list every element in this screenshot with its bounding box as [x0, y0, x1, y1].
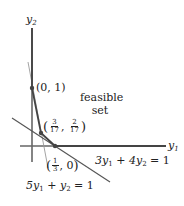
- feasible-set-label: feasible set: [80, 92, 120, 116]
- equation-label-5y1-plus-y2: 5y1 + y2 = 1: [26, 180, 94, 193]
- vertex-0-1: [30, 86, 34, 90]
- y1-axis-label: y1: [168, 140, 179, 153]
- point-label-1-3-0: (13, 0): [46, 158, 79, 173]
- point-label-3-17-2-17: (317, 217): [43, 119, 86, 134]
- point-label-0-1: (0, 1): [36, 82, 66, 93]
- equation-label-3y1-plus-4y2: 3y1 + 4y2 = 1: [95, 155, 170, 168]
- y2-axis-label: y2: [26, 14, 37, 27]
- vertex-1-3-0: [53, 144, 57, 148]
